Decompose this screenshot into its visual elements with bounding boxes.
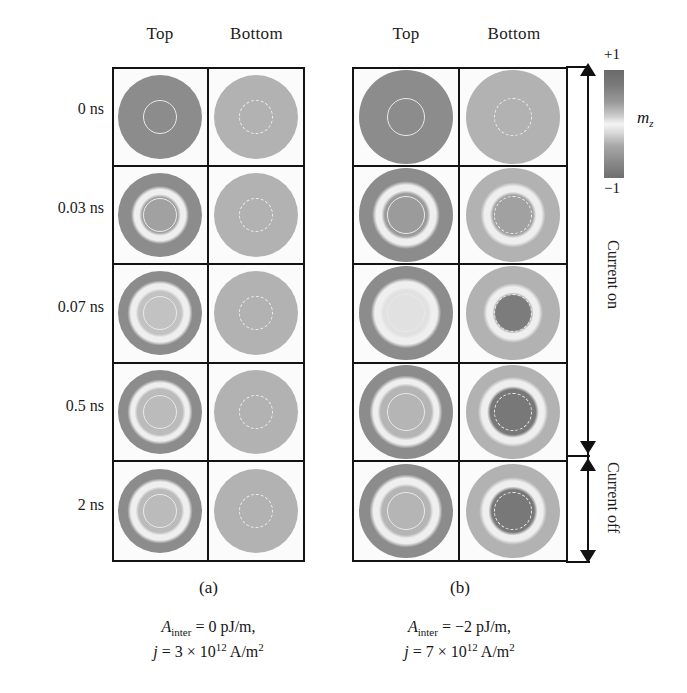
snapshot-cell-a-05ns-bottom <box>209 364 304 462</box>
colorbar-gradient <box>604 70 624 178</box>
panel-a-grid <box>112 67 305 562</box>
skyrmion-outline-dashed <box>494 492 532 530</box>
panel-label-b: (b) <box>352 578 568 598</box>
caption-b-symbol: A <box>408 618 418 635</box>
row-label-3: 0.5 ns <box>8 397 104 415</box>
skyrmion-outline-dashed <box>239 100 273 134</box>
skyrmion-outline-solid <box>143 198 177 232</box>
skyrmion-outline-solid <box>387 492 425 530</box>
colorbar-quantity-symbol: m <box>637 108 649 127</box>
row-label-2: 0.07 ns <box>8 298 104 316</box>
caption-b-rest: = −2 pJ/m, <box>438 618 511 635</box>
snapshot-cell-a-007ns-bottom <box>209 265 304 363</box>
skyrmion-outline-dashed <box>239 198 273 232</box>
snapshot-cell-a-003ns-bottom <box>209 167 304 265</box>
skyrmion-outline-dashed <box>239 395 273 429</box>
caption-a: Ainter = 0 pJ/m, j = 3 × 1012 A/m2 <box>92 616 325 663</box>
caption-a-line1: Ainter = 0 pJ/m, <box>92 616 325 640</box>
current-on-label: Current on <box>604 240 622 309</box>
figure-root: Top Bottom Top Bottom 0 ns 0.03 ns 0.07 … <box>0 0 687 693</box>
column-header-top-a: Top <box>112 24 208 44</box>
skyrmion-outline-dashed <box>494 393 532 431</box>
colorbar-max-label: +1 <box>604 46 620 63</box>
column-header-bottom-a: Bottom <box>208 24 305 44</box>
snapshot-cell-b-007ns-bottom <box>460 265 566 363</box>
skyrmion-outline-solid <box>143 100 177 134</box>
colorbar-min-label: −1 <box>604 180 620 197</box>
snapshot-cell-a-05ns-top <box>114 364 209 462</box>
snapshot-cell-b-003ns-bottom <box>460 167 566 265</box>
caption-b-unit: A/m <box>478 643 510 660</box>
caption-a-line2: j = 3 × 1012 A/m2 <box>92 640 325 663</box>
skyrmion-outline-solid <box>143 395 177 429</box>
skyrmion-outline-solid <box>387 196 425 234</box>
skyrmion-outline-dashed <box>494 98 532 136</box>
caption-a-j-rest: = 3 × 10 <box>158 643 216 660</box>
skyrmion-outline-solid <box>387 393 425 431</box>
snapshot-cell-a-2ns-bottom <box>209 462 304 560</box>
snapshot-cell-b-2ns-bottom <box>460 462 566 560</box>
skyrmion-outline-solid <box>143 296 177 330</box>
snapshot-cell-a-003ns-top <box>114 167 209 265</box>
skyrmion-outline-solid <box>387 294 425 332</box>
caption-b: Ainter = −2 pJ/m, j = 7 × 1012 A/m2 <box>343 616 576 663</box>
colorbar-quantity-label: mz <box>637 108 654 129</box>
skyrmion-outline-dashed <box>494 294 532 332</box>
skyrmion-outline-dashed <box>494 196 532 234</box>
caption-b-unit-exp: 2 <box>509 641 515 653</box>
snapshot-cell-a-0ns-top <box>114 69 209 167</box>
current-off-arrow-top <box>580 458 596 471</box>
panel-label-a: (a) <box>112 578 305 598</box>
caption-a-rest: = 0 pJ/m, <box>191 618 255 635</box>
snapshot-cell-b-0ns-bottom <box>460 69 566 167</box>
caption-b-line2: j = 7 × 1012 A/m2 <box>343 640 576 663</box>
current-bracket-axis <box>587 74 589 563</box>
bracket-tick-top <box>566 66 590 68</box>
caption-a-unit-exp: 2 <box>258 641 264 653</box>
snapshot-cell-b-007ns-top <box>354 265 460 363</box>
column-header-bottom-b: Bottom <box>460 24 568 44</box>
panel-b-grid <box>352 67 568 562</box>
column-header-top-b: Top <box>352 24 460 44</box>
bracket-tick-mid <box>566 455 590 457</box>
snapshot-cell-b-05ns-bottom <box>460 364 566 462</box>
skyrmion-outline-dashed <box>239 494 273 528</box>
snapshot-cell-a-0ns-bottom <box>209 69 304 167</box>
bracket-tick-bottom <box>566 561 590 563</box>
caption-a-symbol: A <box>161 618 171 635</box>
skyrmion-outline-solid <box>387 98 425 136</box>
snapshot-cell-b-2ns-top <box>354 462 460 560</box>
caption-b-line1: Ainter = −2 pJ/m, <box>343 616 576 640</box>
caption-a-unit: A/m <box>227 643 259 660</box>
caption-b-sub: inter <box>418 626 438 638</box>
current-on-arrow-bottom <box>580 441 596 454</box>
row-label-1: 0.03 ns <box>8 199 104 217</box>
caption-b-j-rest: = 7 × 10 <box>409 643 467 660</box>
current-on-arrow-top <box>580 63 596 76</box>
skyrmion-outline-dashed <box>239 296 273 330</box>
caption-a-exp: 12 <box>216 641 227 653</box>
caption-a-sub: inter <box>171 626 191 638</box>
snapshot-cell-b-05ns-top <box>354 364 460 462</box>
snapshot-cell-b-003ns-top <box>354 167 460 265</box>
current-off-label: Current off <box>604 462 622 533</box>
skyrmion-outline-solid <box>143 494 177 528</box>
snapshot-cell-a-2ns-top <box>114 462 209 560</box>
caption-b-exp: 12 <box>467 641 478 653</box>
snapshot-cell-a-007ns-top <box>114 265 209 363</box>
snapshot-cell-b-0ns-top <box>354 69 460 167</box>
row-label-4: 2 ns <box>8 496 104 514</box>
row-label-0: 0 ns <box>8 100 104 118</box>
colorbar-quantity-sub: z <box>649 117 653 129</box>
